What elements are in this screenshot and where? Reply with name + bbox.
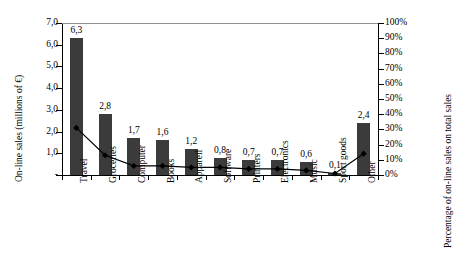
- y-axis-right-tick-mark: [378, 145, 384, 146]
- y-axis-left-tick-label: 6,0: [28, 40, 58, 50]
- y-axis-right-tick-label: 0%: [385, 170, 419, 180]
- chart-container: On-line sales (millions of €) Percentage…: [0, 0, 455, 267]
- y-axis-right-tick-label: 70%: [385, 64, 419, 74]
- y-axis-left-tick-label: 1,0: [28, 149, 58, 159]
- line-marker: [274, 166, 280, 172]
- y-axis-left-tick-label: 7,0: [28, 18, 58, 28]
- y-axis-right-tick-mark: [378, 99, 384, 100]
- y-axis-right-ticks: 100%90%80%70%60%50%40%30%20%10%0%: [385, 0, 419, 267]
- y-axis-right-tick-label: 50%: [385, 94, 419, 104]
- y-axis-left-tick-label: 2,0: [28, 127, 58, 137]
- y-axis-right-tick-label: 30%: [385, 125, 419, 135]
- y-axis-right-tick-label: 80%: [385, 49, 419, 59]
- y-axis-right-tick-label: 20%: [385, 140, 419, 150]
- y-axis-left-title: On-line sales (millions of €): [14, 75, 24, 182]
- line-marker: [188, 164, 194, 170]
- line-marker: [246, 166, 252, 172]
- y-axis-right-tick-mark: [378, 84, 384, 85]
- y-axis-right-tick-mark: [378, 69, 384, 70]
- line-marker: [159, 163, 165, 169]
- y-axis-right-tick-label: 60%: [385, 79, 419, 89]
- y-axis-right-tick-label: 40%: [385, 109, 419, 119]
- y-axis-right-tick-mark: [378, 114, 384, 115]
- y-axis-right-tick-mark: [378, 160, 384, 161]
- y-axis-right-tick-label: 90%: [385, 33, 419, 43]
- percentage-line-series: [62, 23, 378, 179]
- x-axis-tick-mark: [378, 176, 379, 180]
- y-axis-left-ticks: 7,06,05,04,03,02,01,0-: [28, 0, 58, 267]
- y-axis-left-tick-label: -: [28, 170, 58, 180]
- y-axis-right-tick-label: 100%: [385, 18, 419, 28]
- y-axis-right-title: Percentage of on-line sales on total sal…: [443, 94, 453, 248]
- y-axis-left-tick-label: 3,0: [28, 105, 58, 115]
- y-axis-left-tick-label: 4,0: [28, 83, 58, 93]
- y-axis-left-tick-label: 5,0: [28, 62, 58, 72]
- line-marker: [303, 167, 309, 173]
- y-axis-right-tick-mark: [378, 38, 384, 39]
- line-marker: [217, 164, 223, 170]
- y-axis-right-tick-mark: [378, 23, 384, 24]
- y-axis-right-tick-mark: [378, 53, 384, 54]
- y-axis-right-tick-mark: [378, 129, 384, 130]
- y-axis-right-tick-label: 10%: [385, 155, 419, 165]
- line-marker: [131, 163, 137, 169]
